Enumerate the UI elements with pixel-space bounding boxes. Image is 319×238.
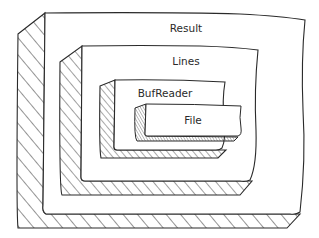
- file-label: File: [184, 114, 202, 126]
- lines-label: Lines: [172, 55, 199, 67]
- bufreader-label: BufReader: [138, 87, 193, 99]
- result-label: Result: [170, 22, 202, 34]
- layer-file: File: [135, 104, 241, 141]
- nested-boxes-diagram: Result Lines BufReader File: [0, 0, 319, 238]
